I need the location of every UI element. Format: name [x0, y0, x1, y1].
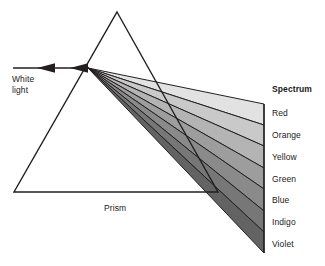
spectrum-label-green: Green	[272, 174, 296, 185]
prism-dispersion-diagram: White light Prism Spectrum Red Orange Ye…	[0, 0, 325, 266]
white-light-arrow	[13, 63, 88, 73]
arrowhead-mid	[37, 63, 55, 73]
arrowhead-tip	[70, 63, 88, 73]
spectrum-heading: Spectrum	[272, 84, 312, 95]
spectrum-label-yellow: Yellow	[272, 152, 297, 163]
spectrum-label-red: Red	[272, 108, 288, 119]
white-light-label-line1: White	[12, 74, 34, 85]
spectrum-label-violet: Violet	[272, 239, 294, 250]
spectrum-label-blue: Blue	[272, 195, 289, 206]
spectrum-label-indigo: Indigo	[272, 217, 296, 228]
spectrum-label-orange: Orange	[272, 130, 301, 141]
white-light-label-line2: light	[12, 85, 34, 96]
spectrum-fan	[88, 68, 264, 253]
white-light-label: White light	[12, 74, 34, 96]
prism-label: Prism	[104, 203, 126, 214]
